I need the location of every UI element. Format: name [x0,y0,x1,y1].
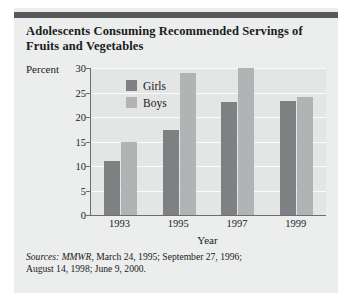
x-axis-tick-1993: 1993 [109,218,130,229]
y-axis-tickmark [86,166,90,167]
legend-label-boys: Boys [143,97,167,109]
legend-swatch-boys-icon [126,97,137,108]
chart-legend: Girls Boys [126,78,167,112]
figure-container: Adolescents Consuming Recommended Servin… [0,0,349,301]
sources-line1-rest: , March 24, 1995; September 27, 1996; [91,251,242,262]
x-axis-tick-1995: 1995 [168,218,189,229]
sources-publication: MMWR [62,251,92,262]
bar-boys-1993 [121,142,137,216]
y-axis-tickmark [86,142,90,143]
bar-boys-1995 [180,73,196,215]
y-axis-tick: 30 [62,63,86,74]
legend-swatch-girls-icon [126,80,137,91]
chart-card: Adolescents Consuming Recommended Servin… [14,8,338,293]
sources-note: Sources: MMWR, March 24, 1995; September… [26,251,328,274]
bar-girls-1995 [163,130,179,215]
sources-line2: August 14, 1998; June 9, 2000. [26,263,146,274]
y-axis-tick: 25 [62,87,86,98]
y-axis-tick-labels: 051015202530 [60,68,86,215]
x-axis-tick-1999: 1999 [285,218,306,229]
y-axis-label: Percent [26,63,59,75]
y-axis-tickmark [86,117,90,118]
y-axis-tickmark [86,93,90,94]
sources-label: Sources: [26,251,59,262]
y-axis-tickmark [86,68,90,69]
y-axis-tickmark [86,215,90,216]
y-axis-tick: 20 [62,112,86,123]
legend-item-boys: Boys [126,95,167,110]
bar-girls-1993 [104,161,120,215]
x-axis-label: Year [90,234,325,246]
y-axis-tickmark [86,191,90,192]
bar-boys-1999 [297,97,313,215]
legend-label-girls: Girls [143,80,166,92]
bar-boys-1997 [238,68,254,215]
bar-girls-1997 [221,102,237,215]
legend-item-girls: Girls [126,78,167,93]
y-axis-tick: 10 [62,161,86,172]
y-axis-tick: 0 [62,210,86,221]
y-axis-tick: 5 [62,185,86,196]
y-axis-tick: 15 [62,136,86,147]
x-axis-tick-1997: 1997 [226,218,247,229]
bar-girls-1999 [280,101,296,215]
gridline [91,68,326,69]
